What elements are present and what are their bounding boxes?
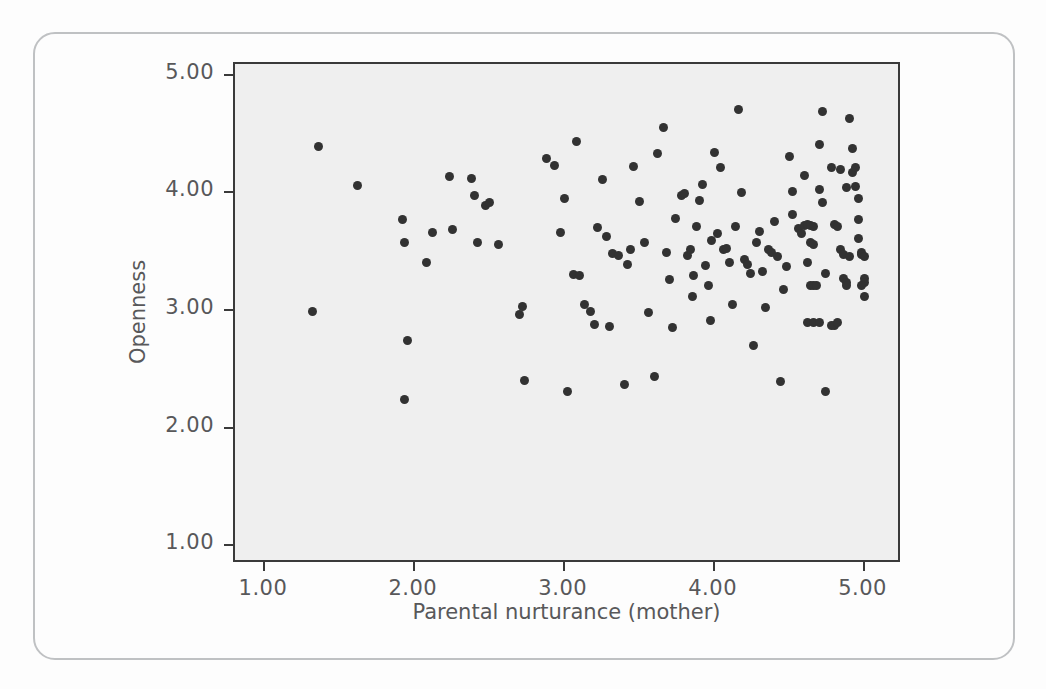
scatter-point (851, 163, 860, 172)
scatter-point (848, 144, 857, 153)
scatter-point (758, 267, 767, 276)
y-tick-mark (224, 191, 233, 193)
scatter-point (698, 180, 707, 189)
scatter-point (860, 252, 869, 261)
scatter-point (728, 300, 737, 309)
x-tick-label: 3.00 (518, 576, 608, 600)
x-tick-label: 2.00 (368, 576, 458, 600)
scatter-point (851, 182, 860, 191)
scatter-point (659, 123, 668, 132)
x-axis-label: Parental nurturance (mother) (233, 600, 900, 624)
scatter-point (688, 292, 697, 301)
scatter-point (821, 269, 830, 278)
y-tick-mark (224, 544, 233, 546)
scatter-point (827, 163, 836, 172)
scatter-point (629, 162, 638, 171)
scatter-point (785, 152, 794, 161)
scatter-point (842, 281, 851, 290)
scatter-point (704, 281, 713, 290)
scatter-point (812, 281, 821, 290)
scatter-point (590, 320, 599, 329)
scatter-point (644, 308, 653, 317)
scatter-point (788, 187, 797, 196)
scatter-point (620, 380, 629, 389)
scatter-point (353, 181, 362, 190)
scatter-point (635, 197, 644, 206)
scatter-point (706, 316, 715, 325)
scatter-point (815, 318, 824, 327)
scatter-point (815, 185, 824, 194)
scatter-point (821, 387, 830, 396)
scatter-point (737, 188, 746, 197)
scatter-point (752, 238, 761, 247)
scatter-point (626, 245, 635, 254)
scatter-point (686, 245, 695, 254)
scatter-point (692, 222, 701, 231)
scatter-point (782, 262, 791, 271)
scatter-point (650, 372, 659, 381)
scatter-point (520, 376, 529, 385)
scatter-point (800, 171, 809, 180)
scatter-point (665, 275, 674, 284)
scatter-point (314, 142, 323, 151)
x-tick-label: 1.00 (218, 576, 308, 600)
scatter-point (614, 251, 623, 260)
scatter-point (743, 260, 752, 269)
scatter-point (818, 107, 827, 116)
scatter-point (695, 196, 704, 205)
scatter-point (836, 165, 845, 174)
scatter-point (845, 114, 854, 123)
scatter-point (542, 154, 551, 163)
x-tick-label: 5.00 (818, 576, 908, 600)
scatter-point (773, 252, 782, 261)
scatter-point (428, 228, 437, 237)
scatter-point (398, 215, 407, 224)
scatter-point (560, 194, 569, 203)
scatter-point (854, 234, 863, 243)
scatter-point (809, 222, 818, 231)
scatter-point (770, 217, 779, 226)
x-tick-mark (863, 562, 865, 571)
scatter-point (422, 258, 431, 267)
scatter-point (640, 238, 649, 247)
scatter-point (746, 269, 755, 278)
scatter-point (515, 310, 524, 319)
scatter-point (550, 161, 559, 170)
scatter-point (710, 148, 719, 157)
scatter-point (803, 258, 812, 267)
scatter-point (403, 336, 412, 345)
scatter-point (854, 215, 863, 224)
scatter-point (689, 271, 698, 280)
scatter-point (854, 194, 863, 203)
scatter-point (445, 172, 454, 181)
x-tick-label: 4.00 (668, 576, 758, 600)
scatter-point (598, 175, 607, 184)
scatter-point (668, 323, 677, 332)
scatter-point (470, 191, 479, 200)
y-axis-label: Openness (126, 162, 150, 462)
scatter-point (833, 318, 842, 327)
plot-area (233, 62, 900, 562)
scatter-point (776, 377, 785, 386)
scatter-point (725, 258, 734, 267)
scatter-point (563, 387, 572, 396)
scatter-point (797, 229, 806, 238)
scatter-point (734, 105, 743, 114)
scatter-point (788, 210, 797, 219)
scatter-point (779, 285, 788, 294)
scatter-point (556, 228, 565, 237)
scatter-point (485, 198, 494, 207)
scatter-point (586, 307, 595, 316)
scatter-point (722, 244, 731, 253)
scatter-point (761, 303, 770, 312)
scatter-point (473, 238, 482, 247)
x-tick-mark (413, 562, 415, 571)
y-tick-label: 1.00 (124, 530, 214, 554)
scatter-point (623, 260, 632, 269)
scatter-point (593, 223, 602, 232)
scatter-point (572, 137, 581, 146)
scatter-point (400, 238, 409, 247)
y-tick-label: 5.00 (124, 60, 214, 84)
y-tick-mark (224, 74, 233, 76)
scatter-point (448, 225, 457, 234)
